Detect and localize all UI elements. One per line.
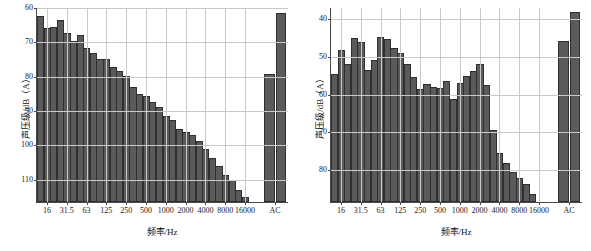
gridline-vertical xyxy=(166,8,167,202)
x-tick-label: 500 xyxy=(434,207,446,215)
gridline-vertical xyxy=(460,8,461,202)
x-tick-mark xyxy=(67,202,68,205)
x-tick-mark xyxy=(420,202,421,205)
y-axis-label-left: 声压级/dB（A） xyxy=(19,71,32,141)
bar-ac-a xyxy=(264,74,275,202)
x-tick-mark xyxy=(539,202,540,205)
gridline-vertical xyxy=(480,8,481,202)
y-tick-label: 110 xyxy=(21,176,33,184)
x-tick-label: 1000 xyxy=(452,207,468,215)
x-tick-label: 500 xyxy=(140,207,152,215)
y-tick-label: 70 xyxy=(25,38,33,46)
x-tick-label: 31.5 xyxy=(60,207,74,215)
y-tick-label: 50 xyxy=(319,53,327,61)
x-tick-label: 16000 xyxy=(529,207,549,215)
x-tick-mark xyxy=(499,202,500,205)
x-tick-mark xyxy=(47,202,48,205)
x-tick-label: 1000 xyxy=(158,207,174,215)
gridline-vertical xyxy=(205,8,206,202)
bar xyxy=(529,194,536,202)
x-tick-mark xyxy=(87,202,88,205)
y-tick-label: 80 xyxy=(319,166,327,174)
x-tick-mark xyxy=(166,202,167,205)
gridline-vertical xyxy=(420,8,421,202)
x-tick-mark xyxy=(341,202,342,205)
y-tick-mark xyxy=(34,77,37,78)
gridline-vertical xyxy=(67,8,68,202)
x-tick-mark xyxy=(126,202,127,205)
bar-series-right xyxy=(331,8,582,202)
x-tick-mark xyxy=(400,202,401,205)
y-tick-mark xyxy=(34,111,37,112)
x-tick-label: 125 xyxy=(394,207,406,215)
gridline-vertical xyxy=(87,8,88,202)
x-tick-label-ac: AC xyxy=(269,207,280,215)
x-tick-mark xyxy=(381,202,382,205)
bar-series-left xyxy=(37,8,288,202)
gridline-vertical xyxy=(440,8,441,202)
bar-ac-c xyxy=(570,12,581,202)
y-tick-mark xyxy=(34,180,37,181)
gridline-horizontal xyxy=(37,77,288,78)
gridline-vertical xyxy=(47,8,48,202)
x-axis-label-left: 频率/Hz xyxy=(147,225,178,238)
x-tick-label: 63 xyxy=(377,207,385,215)
x-tick-mark xyxy=(225,202,226,205)
y-tick-mark xyxy=(328,132,331,133)
x-tick-mark xyxy=(480,202,481,205)
gridline-vertical xyxy=(341,8,342,202)
gridline-vertical xyxy=(186,8,187,202)
x-tick-label: 8000 xyxy=(511,207,527,215)
x-tick-label: 250 xyxy=(414,207,426,215)
gridline-horizontal xyxy=(331,132,582,133)
x-tick-mark xyxy=(186,202,187,205)
x-tick-label: 16 xyxy=(337,207,345,215)
x-tick-label: 4000 xyxy=(197,207,213,215)
gridline-vertical xyxy=(539,8,540,202)
x-tick-mark xyxy=(361,202,362,205)
gridline-horizontal xyxy=(331,170,582,171)
gridline-vertical xyxy=(245,8,246,202)
y-tick-mark xyxy=(328,57,331,58)
x-tick-label: 2000 xyxy=(178,207,194,215)
x-tick-label: 250 xyxy=(120,207,132,215)
y-axis-label-right: 声压级/dB（A） xyxy=(313,71,326,141)
y-tick-label: 40 xyxy=(319,15,327,23)
x-tick-label: 125 xyxy=(100,207,112,215)
gridline-horizontal xyxy=(37,180,288,181)
x-tick-mark xyxy=(519,202,520,205)
x-tick-label: 2000 xyxy=(472,207,488,215)
bar-ac-c xyxy=(276,13,287,203)
x-tick-label: 63 xyxy=(83,207,91,215)
gridline-horizontal xyxy=(37,8,288,9)
x-tick-mark xyxy=(205,202,206,205)
gridline-vertical xyxy=(146,8,147,202)
figure-container: 110100908070601631.563125250500100020004… xyxy=(0,0,591,251)
bar-ac-a xyxy=(558,41,569,202)
gridline-vertical xyxy=(400,8,401,202)
x-tick-label: 16 xyxy=(43,207,51,215)
x-tick-mark xyxy=(569,202,570,205)
gridline-horizontal xyxy=(37,42,288,43)
x-tick-label: 8000 xyxy=(217,207,233,215)
x-tick-mark xyxy=(440,202,441,205)
gridline-vertical xyxy=(225,8,226,202)
x-tick-mark xyxy=(245,202,246,205)
gridline-horizontal xyxy=(331,57,582,58)
gridline-vertical xyxy=(381,8,382,202)
plot-area-left: 110100908070601631.563125250500100020004… xyxy=(36,8,288,203)
x-tick-label: 4000 xyxy=(491,207,507,215)
gridline-vertical xyxy=(361,8,362,202)
y-tick-label: 60 xyxy=(25,4,33,12)
plot-area-right: 80706050401631.5631252505001000200040008… xyxy=(330,8,582,203)
gridline-vertical xyxy=(499,8,500,202)
gridline-horizontal xyxy=(331,95,582,96)
x-tick-mark xyxy=(460,202,461,205)
x-tick-label: 31.5 xyxy=(354,207,368,215)
x-tick-label-ac: AC xyxy=(563,207,574,215)
gridline-vertical xyxy=(126,8,127,202)
y-tick-mark xyxy=(34,42,37,43)
gridline-horizontal xyxy=(37,145,288,146)
gridline-horizontal xyxy=(331,19,582,20)
x-tick-label: 16000 xyxy=(235,207,255,215)
